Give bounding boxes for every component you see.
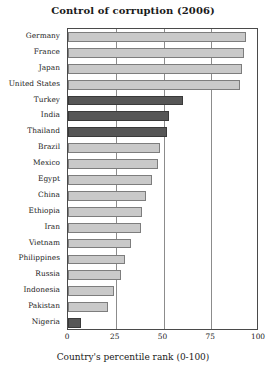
bar-row — [68, 143, 257, 153]
bar — [68, 80, 240, 90]
bar — [68, 143, 160, 153]
bar-row — [68, 127, 257, 137]
bar — [68, 270, 121, 280]
bar — [68, 302, 108, 312]
bar-row — [68, 270, 257, 280]
bar — [68, 207, 142, 217]
y-axis-label: Turkey — [34, 96, 60, 103]
x-axis-title: Country's percentile rank (0-100) — [0, 352, 266, 362]
x-axis-tick-label: 100 — [251, 332, 265, 341]
bar-row — [68, 286, 257, 296]
bar-row — [68, 239, 257, 249]
bar-row — [68, 96, 257, 106]
bar-row — [68, 80, 257, 90]
bar — [68, 318, 81, 328]
bar — [68, 223, 141, 233]
x-axis-ticks: 0255075100 — [0, 332, 266, 346]
bar — [68, 127, 167, 137]
bar-row — [68, 32, 257, 42]
x-axis-tick-label: 25 — [110, 332, 119, 341]
y-axis-label: Indonesia — [23, 286, 60, 293]
bar — [68, 96, 183, 106]
y-axis-label: Ethiopia — [29, 207, 60, 214]
bar — [68, 159, 158, 169]
bar — [68, 191, 146, 201]
x-axis-tick-label: 0 — [65, 332, 70, 341]
y-axis-label: France — [34, 48, 60, 55]
y-axis-label: Russia — [35, 270, 60, 277]
y-axis-label: Vietnam — [29, 239, 60, 246]
y-axis-labels: GermanyFranceJapanUnited StatesTurkeyInd… — [0, 28, 64, 330]
plot-area — [67, 28, 258, 330]
bar-chart: Control of corruption (2006) GermanyFran… — [0, 0, 266, 377]
y-axis-label: Japan — [39, 64, 60, 71]
bar-row — [68, 175, 257, 185]
bar — [68, 111, 169, 121]
bar — [68, 175, 152, 185]
bar-row — [68, 255, 257, 265]
y-axis-label: Mexico — [33, 159, 60, 166]
y-axis-label: Philippines — [18, 254, 60, 261]
y-axis-label: India — [41, 111, 60, 118]
bar-row — [68, 207, 257, 217]
y-axis-label: Pakistan — [28, 302, 60, 309]
bar-row — [68, 318, 257, 328]
bar — [68, 64, 242, 74]
bar-row — [68, 64, 257, 74]
y-axis-label: United States — [9, 80, 60, 87]
bar-row — [68, 159, 257, 169]
bar — [68, 286, 114, 296]
y-axis-label: Egypt — [38, 175, 60, 182]
bar-row — [68, 223, 257, 233]
bar-series — [68, 29, 257, 329]
bar — [68, 239, 131, 249]
bar-row — [68, 191, 257, 201]
y-axis-label: Nigeria — [32, 318, 60, 325]
y-axis-label: Thailand — [27, 127, 60, 134]
y-axis-label: Germany — [26, 32, 60, 39]
chart-title: Control of corruption (2006) — [0, 5, 266, 16]
x-axis-tick-label: 50 — [158, 332, 167, 341]
bar — [68, 32, 246, 42]
bar — [68, 255, 125, 265]
bar-row — [68, 302, 257, 312]
bar-row — [68, 48, 257, 58]
y-axis-label: Iran — [44, 223, 60, 230]
bar-row — [68, 111, 257, 121]
y-axis-label: Brazil — [38, 143, 60, 150]
bar — [68, 48, 244, 58]
x-axis-tick-label: 75 — [206, 332, 215, 341]
y-axis-label: China — [38, 191, 60, 198]
